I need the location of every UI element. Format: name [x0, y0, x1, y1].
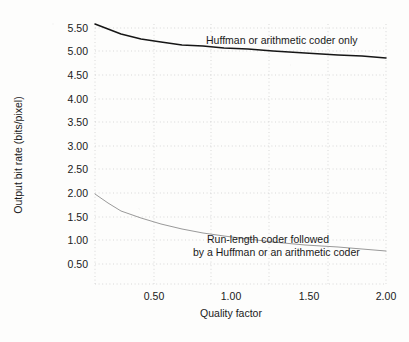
y-tick-label: 4.00 [68, 93, 89, 105]
y-tick-labels: 5.50 5.00 4.50 4.00 3.50 3.00 2.50 2.00 … [68, 22, 89, 270]
x-axis-title: Quality factor [200, 307, 262, 319]
x-tick-labels: 0.50 1.00 1.50 2.00 [144, 290, 397, 302]
annotation-runlength-line1: Run-length coder followed [207, 233, 329, 245]
vertical-gridlines [95, 24, 386, 284]
y-tick-label: 3.00 [68, 140, 89, 152]
x-tick-label: 1.50 [299, 290, 320, 302]
annotation-runlength-line2: by a Huffman or an arithmetic coder [193, 246, 360, 258]
y-tick-label: 4.50 [68, 69, 89, 81]
y-tick-label: 2.50 [68, 163, 89, 175]
y-tick-label: 0.50 [68, 258, 89, 270]
y-tick-label: 5.50 [68, 22, 89, 34]
annotation-huffman-only: Huffman or arithmetic coder only [206, 34, 358, 46]
y-tick-label: 5.00 [68, 45, 89, 57]
chart-figure: 5.50 5.00 4.50 4.00 3.50 3.00 2.50 2.00 … [0, 0, 409, 342]
y-tick-label: 1.50 [68, 211, 89, 223]
line-chart-svg: 5.50 5.00 4.50 4.00 3.50 3.00 2.50 2.00 … [0, 0, 409, 342]
y-axis-title: Output bit rate (bits/pixel) [12, 96, 24, 213]
x-tick-label: 0.50 [144, 290, 165, 302]
x-tick-label: 1.00 [221, 290, 242, 302]
y-tick-label: 2.00 [68, 187, 89, 199]
y-tick-label: 3.50 [68, 116, 89, 128]
y-tick-label: 1.00 [68, 234, 89, 246]
x-tick-label: 2.00 [376, 290, 397, 302]
